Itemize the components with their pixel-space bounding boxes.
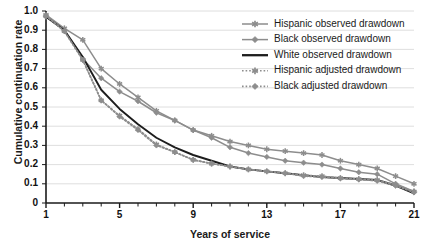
x-tick-label: 21 [399, 209, 429, 220]
y-tick-label: 0.2 [2, 158, 38, 169]
y-tick-label: 0.9 [2, 24, 38, 35]
x-tick-label: 9 [178, 209, 208, 220]
y-tick-label: 0.1 [2, 177, 38, 188]
legend-label-4[interactable]: Black adjusted drawdown [274, 80, 387, 91]
legend-label-0[interactable]: Hispanic observed drawdown [274, 18, 405, 29]
y-tick-label: 0.7 [2, 62, 38, 73]
y-tick-label: 0.5 [2, 101, 38, 112]
y-tick-label: 0.8 [2, 43, 38, 54]
y-tick-label: 0.6 [2, 81, 38, 92]
y-tick-label: 1.0 [2, 5, 38, 16]
legend-label-3[interactable]: Hispanic adjusted drawdown [274, 64, 401, 75]
legend-label-1[interactable]: Black observed drawdown [274, 33, 391, 44]
legend-label-2[interactable]: White observed drawdown [274, 49, 392, 60]
y-tick-label: 0.4 [2, 120, 38, 131]
x-axis-title: Years of service [46, 228, 414, 240]
x-tick-label: 13 [252, 209, 282, 220]
y-tick-label: 0 [2, 197, 38, 208]
x-tick-label: 5 [105, 209, 135, 220]
y-tick-label: 0.3 [2, 139, 38, 150]
x-tick-label: 1 [31, 209, 61, 220]
x-tick-label: 17 [325, 209, 355, 220]
